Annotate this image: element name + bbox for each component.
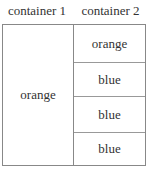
- container-1: orange: [3, 25, 74, 165]
- item-label: blue: [98, 72, 120, 88]
- container-2-item: blue: [74, 63, 145, 97]
- container-2-item: orange: [74, 25, 145, 63]
- item-label: orange: [92, 36, 127, 52]
- diagram-box: orange orange blue blue blue: [2, 24, 146, 166]
- container-2-item: blue: [74, 97, 145, 133]
- container-1-header: container 1: [0, 3, 74, 19]
- container-2: orange blue blue blue: [74, 25, 145, 165]
- container-1-label: orange: [20, 87, 55, 103]
- container-2-item: blue: [74, 133, 145, 165]
- item-label: blue: [98, 141, 120, 157]
- item-label: blue: [98, 107, 120, 123]
- container-2-header: container 2: [74, 3, 147, 19]
